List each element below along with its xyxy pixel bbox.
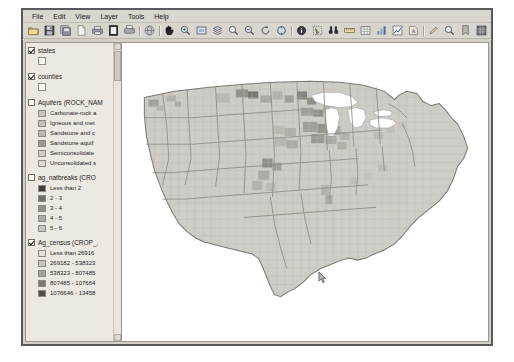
legend-symbol-row: Sandstone and c [28, 128, 114, 138]
legend-symbol-row: Sandstone aquif [28, 138, 114, 148]
zoom-layer-icon[interactable] [210, 23, 225, 38]
legend-swatch [38, 130, 46, 137]
scrollbar-thumb[interactable] [114, 51, 121, 81]
page-icon[interactable] [106, 23, 121, 38]
legend-swatch [38, 160, 46, 167]
zoom-selection-icon[interactable] [226, 23, 241, 38]
legend-swatch [38, 260, 46, 267]
legend-swatch [38, 120, 46, 127]
layer-item-aquifers[interactable]: Aquifers (ROCK_NAM [28, 97, 114, 108]
legend-symbol-label: Less than 26916 [50, 248, 94, 258]
layers-legend-panel[interactable]: states counties [25, 42, 121, 342]
menu-item-layer[interactable]: Layer [95, 10, 123, 23]
layer-checkbox-ag-natbreaks[interactable] [28, 174, 35, 181]
legend-symbol-row: 538323 - 807485 [28, 268, 114, 278]
legend-swatch [38, 185, 46, 192]
layer-label-aquifers: Aquifers (ROCK_NAM [38, 97, 103, 108]
legend-swatch [38, 270, 46, 277]
map-canvas[interactable] [121, 42, 489, 342]
legend-swatch [38, 250, 46, 257]
screenshot-root: File Edit View Layer Tools Help [0, 0, 514, 362]
scroll-down-arrow-icon[interactable] [114, 334, 121, 341]
legend-symbol-row: Igneous and met [28, 118, 114, 128]
legend-symbol-row: 269182 - 538323 [28, 258, 114, 268]
layer-label-ag-natbreaks: ag_natbreaks (CRO [38, 172, 96, 183]
statistics-icon[interactable] [374, 23, 389, 38]
select-features-icon[interactable] [310, 23, 325, 38]
legend-symbol-label: 538323 - 807485 [50, 268, 95, 278]
gis-application-window: File Edit View Layer Tools Help [21, 8, 493, 346]
chart-icon[interactable] [390, 23, 405, 38]
legend-symbol-row: 807485 - 107664 [28, 278, 114, 288]
legend-symbol-label: 1076646 - 13458 [50, 288, 95, 298]
legend-symbol-label: 4 - 5 [50, 213, 62, 223]
refresh-icon[interactable] [274, 23, 289, 38]
layer-checkbox-counties[interactable] [28, 73, 35, 80]
save-as-icon[interactable] [58, 23, 73, 38]
legend-vertical-scrollbar[interactable] [113, 43, 121, 341]
menu-item-help[interactable]: Help [149, 10, 173, 23]
zoom-in-icon[interactable] [178, 23, 193, 38]
layer-label-states: states [38, 45, 55, 56]
bookmark-icon[interactable] [458, 23, 473, 38]
legend-symbol-row: Semiconsolidate [28, 148, 114, 158]
grid-icon[interactable] [474, 23, 489, 38]
legend-swatch [38, 195, 46, 202]
legend-symbol-label: Carbonate-rock a [50, 108, 96, 118]
print-icon[interactable] [90, 23, 105, 38]
svg-text:A: A [411, 28, 415, 34]
printer-icon[interactable] [122, 23, 137, 38]
menu-item-edit[interactable]: Edit [48, 10, 70, 23]
menu-item-view[interactable]: View [70, 10, 95, 23]
legend-swatch [38, 225, 46, 232]
zoom-last-icon[interactable] [258, 23, 273, 38]
layer-item-states[interactable]: states [28, 45, 114, 56]
pencil-icon[interactable] [426, 23, 441, 38]
magnifier-icon[interactable] [442, 23, 457, 38]
zoom-full-icon[interactable] [194, 23, 209, 38]
globe-icon[interactable] [142, 23, 157, 38]
save-icon[interactable] [42, 23, 57, 38]
legend-swatch [38, 215, 46, 222]
legend-symbol-label: Sandstone and c [50, 128, 95, 138]
layer-checkbox-ag-census[interactable] [28, 239, 35, 246]
legend-swatch [38, 140, 46, 147]
client-area: states counties [23, 40, 491, 344]
legend-symbol-label: Igneous and met [50, 118, 95, 128]
legend-symbol-label: 807485 - 107664 [50, 278, 95, 288]
layer-item-ag-natbreaks[interactable]: ag_natbreaks (CRO [28, 172, 114, 183]
layer-symbol-counties [38, 83, 46, 91]
scroll-up-arrow-icon[interactable] [114, 43, 121, 50]
menu-item-file[interactable]: File [27, 10, 48, 23]
measure-icon[interactable] [342, 23, 357, 38]
layer-item-ag-census[interactable]: Ag_census (CROP_, [28, 237, 114, 248]
legend-scroll-content: states counties [26, 43, 114, 341]
open-folder-icon[interactable] [26, 23, 41, 38]
legend-symbol-label: Less than 2 [50, 183, 81, 193]
legend-symbol-row: 5 - 6 [28, 223, 114, 233]
label-icon[interactable]: A [406, 23, 421, 38]
layer-checkbox-aquifers[interactable] [28, 99, 35, 106]
legend-symbol-label: 3 - 4 [50, 203, 62, 213]
legend-swatch [38, 150, 46, 157]
layer-item-counties[interactable]: counties [28, 71, 114, 82]
legend-symbol-label: 269182 - 538323 [50, 258, 95, 268]
legend-symbol-row: 3 - 4 [28, 203, 114, 213]
legend-symbol-row: Less than 26916 [28, 248, 114, 258]
legend-symbol-label: 2 - 3 [50, 193, 62, 203]
layer-label-counties: counties [38, 71, 62, 82]
legend-symbol-row: 2 - 3 [28, 193, 114, 203]
binoculars-icon[interactable] [326, 23, 341, 38]
legend-symbol-label: Unconsolidated s [50, 158, 96, 168]
legend-symbol-label: Sandstone aquif [50, 138, 93, 148]
menu-item-tools[interactable]: Tools [123, 10, 149, 23]
identify-icon[interactable] [294, 23, 309, 38]
layer-label-ag-census: Ag_census (CROP_, [38, 237, 98, 248]
layer-checkbox-states[interactable] [28, 47, 35, 54]
legend-symbol-row: Carbonate-rock a [28, 108, 114, 118]
main-toolbar: A [23, 23, 491, 39]
pan-hand-icon[interactable] [162, 23, 177, 38]
new-icon[interactable] [74, 23, 89, 38]
attribute-table-icon[interactable] [358, 23, 373, 38]
zoom-out-icon[interactable] [242, 23, 257, 38]
